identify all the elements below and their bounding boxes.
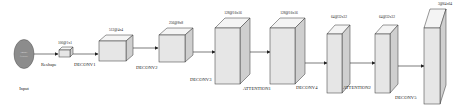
block-3x64x64: 3@64x64 xyxy=(424,2,452,104)
block-64x32x32-b: 64@32x32 xyxy=(375,15,398,93)
edge-label-deconv3: DECONV3 xyxy=(190,77,212,82)
block-100x1x1: 100@1x1 xyxy=(58,41,73,57)
input-inner-text-1: Image xyxy=(21,51,29,54)
block-label: 64@32x32 xyxy=(331,15,347,19)
edge-label-deconv4: DECONV4 xyxy=(296,85,318,90)
network-diagram: Image feature Input Reshape 100@1x1 DECO… xyxy=(0,0,460,108)
edge-label-attention2: ATTENTION2 xyxy=(343,85,372,90)
block-256x8x8: 256@8x8 xyxy=(159,21,193,62)
input-label: Input xyxy=(19,86,29,91)
block-label: 128@16x16 xyxy=(224,11,242,15)
block-label: 256@8x8 xyxy=(169,21,183,25)
block-128x16x16-b: 128@16x16 xyxy=(270,11,305,84)
block-label: 512@4x4 xyxy=(109,28,123,32)
edge-label-deconv5: DECONV5 xyxy=(395,95,417,100)
block-128x16x16-a: 128@16x16 xyxy=(215,11,250,84)
edge-label-deconv2: DECONV2 xyxy=(136,65,158,70)
input-inner-text-2: feature xyxy=(20,55,29,58)
edge-label-attention1: ATTENTION1 xyxy=(243,86,272,91)
block-label: 128@16x16 xyxy=(280,11,298,15)
edge-label-deconv1: DECONV1 xyxy=(74,62,96,67)
block-label: 100@1x1 xyxy=(58,41,72,45)
block-512x4x4: 512@4x4 xyxy=(99,28,133,61)
block-label: 3@64x64 xyxy=(438,2,452,6)
block-label: 64@32x32 xyxy=(379,15,395,19)
edge-label-reshape: Reshape xyxy=(41,62,57,67)
input-node: Image feature Input xyxy=(14,40,34,92)
block-64x32x32-a: 64@32x32 xyxy=(327,15,350,93)
